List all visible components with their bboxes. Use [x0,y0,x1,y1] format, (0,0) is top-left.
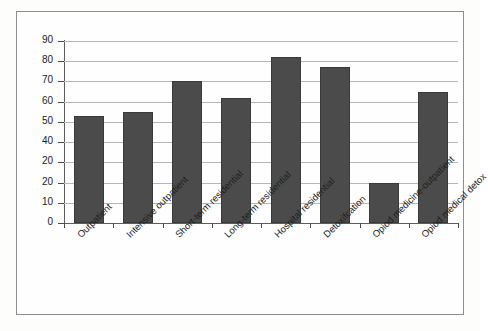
x-axis-tick-mark [261,223,262,228]
y-axis-tick-label: 50 [42,115,53,126]
x-axis-tick-mark [113,223,114,228]
y-axis-tick-label: 90 [42,34,53,45]
y-axis-tick-label: 20 [42,176,53,187]
y-axis-tick-label: 10 [42,196,53,207]
y-axis-tick-label: 60 [42,95,53,106]
x-axis-tick-mark [458,223,459,228]
x-axis-line [58,223,458,224]
y-axis-tick-label: 80 [42,54,53,65]
bar [271,57,301,223]
y-axis-tick-label: 0 [47,216,53,227]
y-axis-tick-label: 20 [42,155,53,166]
x-axis-tick-mark [64,223,65,228]
y-axis-tick-label: 70 [42,74,53,85]
y-axis-tick-label: 40 [42,135,53,146]
x-axis-tick-mark [310,223,311,228]
bar [320,67,350,223]
chart-frame-border: 9080706050402020100 OutpatientIntensive … [16,11,464,315]
x-axis-tick-mark [163,223,164,228]
bar [172,81,202,223]
x-axis-tick-mark [360,223,361,228]
x-axis-tick-mark [409,223,410,228]
bar [221,98,251,223]
x-axis-tick-mark [212,223,213,228]
